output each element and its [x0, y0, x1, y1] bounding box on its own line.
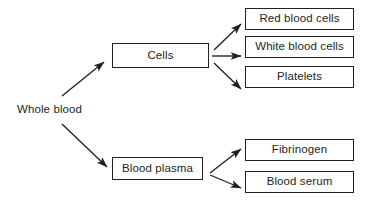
node-blood-plasma: Blood plasma — [112, 157, 203, 180]
node-fibrinogen-label: Fibrinogen — [272, 144, 327, 156]
diagram-canvas: Whole blood Cells Blood plasma Red blood… — [0, 0, 367, 204]
arrow-cells-to-platelets — [214, 63, 241, 89]
node-red-blood-cells-label: Red blood cells — [259, 13, 339, 25]
node-cells-label: Cells — [147, 50, 173, 62]
node-platelets-label: Platelets — [277, 71, 322, 83]
node-white-blood-cells: White blood cells — [245, 36, 354, 58]
node-cells: Cells — [112, 43, 209, 68]
node-whole-blood: Whole blood — [17, 101, 95, 118]
arrow-blood-plasma-to-fibrinogen — [210, 149, 241, 173]
arrow-blood-plasma-to-blood-serum — [210, 175, 241, 188]
node-platelets: Platelets — [245, 66, 354, 88]
node-fibrinogen: Fibrinogen — [245, 139, 354, 161]
node-blood-serum: Blood serum — [245, 171, 354, 193]
node-blood-plasma-label: Blood plasma — [122, 163, 193, 175]
arrow-whole-blood-to-blood-plasma — [62, 124, 107, 167]
arrow-cells-to-red-blood-cells — [214, 24, 241, 50]
node-blood-serum-label: Blood serum — [267, 176, 333, 188]
node-red-blood-cells: Red blood cells — [245, 8, 354, 30]
node-white-blood-cells-label: White blood cells — [255, 41, 344, 53]
node-whole-blood-label: Whole blood — [17, 104, 82, 116]
arrow-whole-blood-to-cells — [62, 62, 104, 96]
